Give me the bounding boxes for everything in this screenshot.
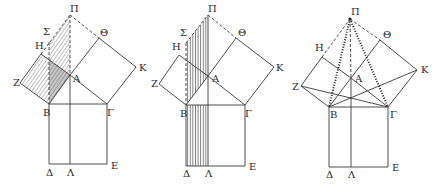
- label-sigma: Σ: [43, 26, 50, 37]
- label-a: A: [72, 73, 81, 84]
- label-e: E: [111, 160, 118, 171]
- label-delta: Δ: [46, 167, 53, 178]
- rectangle-b-delta-lambda: [186, 105, 208, 166]
- label-z: Z: [292, 81, 299, 92]
- label-k: K: [276, 62, 284, 73]
- figure-1: Π Θ Σ H K Z A B Γ Δ Λ E: [13, 3, 147, 178]
- label-delta: Δ: [183, 168, 190, 179]
- label-lambda: Λ: [347, 169, 356, 180]
- label-h: H: [35, 40, 44, 51]
- label-b: B: [180, 108, 187, 119]
- label-lambda: Λ: [66, 167, 75, 178]
- label-theta: Θ: [100, 27, 108, 38]
- label-lambda: Λ: [204, 168, 213, 179]
- figure-2-labels: Π Θ Σ H K Z A B Γ Δ Λ E: [151, 3, 284, 179]
- label-delta: Δ: [326, 169, 333, 180]
- parallelogram-sigma-pi-a-b: [186, 15, 208, 105]
- label-k: K: [139, 62, 147, 73]
- label-pi: Π: [351, 6, 360, 17]
- label-k: K: [421, 64, 429, 75]
- label-theta: Θ: [238, 27, 246, 38]
- label-e: E: [249, 161, 256, 172]
- euclid-figures: Π Θ Σ H K Z A B Γ Δ Λ E Π: [0, 0, 436, 186]
- label-pi: Π: [208, 3, 217, 14]
- label-a: A: [211, 73, 220, 84]
- point-pi: [348, 17, 351, 20]
- label-b: B: [330, 109, 337, 120]
- label-b: B: [43, 107, 50, 118]
- label-theta: Θ: [383, 29, 391, 40]
- label-gamma: Γ: [245, 108, 252, 119]
- label-z: Z: [151, 78, 158, 89]
- figure-2: Π Θ Σ H K Z A B Γ Δ Λ E: [151, 3, 284, 179]
- label-h: H: [315, 42, 324, 53]
- label-pi: Π: [70, 3, 79, 14]
- label-gamma: Γ: [390, 109, 397, 120]
- label-gamma: Γ: [107, 107, 114, 118]
- label-sigma: Σ: [180, 27, 187, 38]
- label-a: A: [354, 73, 363, 84]
- label-e: E: [392, 162, 399, 173]
- label-z: Z: [13, 77, 20, 88]
- label-h: H: [172, 41, 181, 52]
- figure-3: Π Θ H K Z A B Γ Δ Λ E: [292, 6, 429, 180]
- figure-3-labels: Π Θ H K Z A B Γ Δ Λ E: [292, 6, 429, 180]
